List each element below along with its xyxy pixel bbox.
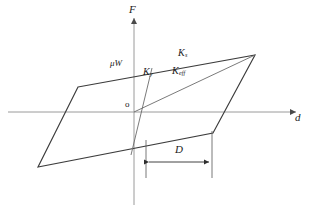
elastic-stiffness-subscript: y — [150, 71, 153, 77]
effective-stiffness-subscript: eff — [179, 70, 185, 76]
post-yield-stiffness-label: Ks — [178, 48, 187, 59]
hysteresis-loop-figure: F d o μW Ks Ky Keff D — [0, 0, 314, 212]
elastic-stiffness-base: K — [143, 66, 150, 77]
friction-force-label: μW — [110, 59, 122, 68]
effective-stiffness-line — [134, 55, 255, 112]
figure-canvas — [0, 0, 314, 212]
elastic-stiffness-label: Ky — [143, 67, 153, 78]
origin-label: o — [125, 100, 130, 109]
design-displacement-label: D — [175, 144, 183, 155]
axis-label-displacement: d — [295, 112, 301, 123]
post-yield-stiffness-subscript: s — [185, 52, 187, 58]
effective-stiffness-base: K — [172, 65, 179, 76]
effective-stiffness-label: Keff — [172, 66, 185, 77]
post-yield-stiffness-base: K — [178, 47, 185, 58]
axis-label-force: F — [129, 4, 136, 15]
